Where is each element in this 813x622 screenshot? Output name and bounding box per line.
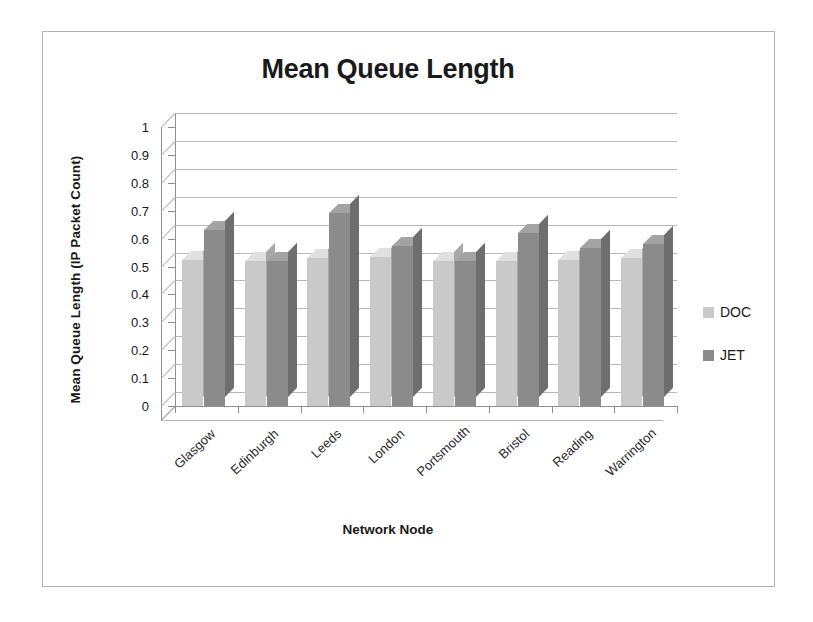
y-axis-tick [168,378,175,379]
chart-legend: DOCJET [703,304,783,390]
bar-side [413,227,422,397]
bar-side [664,226,673,397]
y-axis-tick-label: 0.8 [103,175,149,190]
gridline-depth [161,280,176,295]
bar-jet-reading [580,248,601,406]
floor-depth-line [161,406,176,421]
x-axis-category-label: London [351,426,407,479]
x-axis-category-label: Portsmouth [414,426,470,479]
x-axis-tick [552,406,553,413]
bar-face [392,246,413,406]
bar-doc-edinburgh [245,261,266,406]
y-axis-tick-label: 0.9 [103,147,149,162]
y-axis-line [175,113,176,406]
y-axis-tick-label: 0.6 [103,231,149,246]
x-axis-category-label: Reading [540,426,596,479]
gridline [175,141,677,142]
x-axis-tick [175,406,176,413]
x-axis-category-label: Leeds [289,426,345,479]
gridline-depth [161,392,176,407]
bar-face [518,233,539,406]
bar-face [204,230,225,406]
bar-face [621,258,642,406]
bar-side [476,243,485,397]
bar-face [580,248,601,406]
x-axis-tick [238,406,239,413]
y-axis-tick [168,267,175,268]
chart-container: Mean Queue Length Mean Queue Length (IP … [42,31,775,587]
bar-face [182,260,203,406]
y-axis-tick-label: 0.3 [103,315,149,330]
legend-label: DOC [720,304,751,320]
legend-item-doc[interactable]: DOC [703,304,783,320]
bar-face [329,213,350,406]
bar-side [601,230,610,397]
bar-jet-portsmouth [455,261,476,406]
gridline-depth [161,336,176,351]
legend-swatch-icon [703,307,714,318]
bar-doc-warrington [621,258,642,406]
y-axis-tick [168,183,175,184]
y-axis-tick-label: 0.5 [103,259,149,274]
bar-doc-london [370,257,391,406]
bar-face [455,261,476,406]
y-axis-tick [168,127,175,128]
gridline-depth [161,364,176,379]
y-axis-tick-label: 0 [103,399,149,414]
gridline [175,113,677,114]
legend-item-jet[interactable]: JET [703,347,783,363]
gridline-depth [161,253,176,268]
y-axis-tick-label: 1 [103,120,149,135]
bar-face [370,257,391,406]
bar-doc-portsmouth [433,261,454,406]
bar-face [433,261,454,406]
bar-face [267,261,288,406]
bar-side [350,195,359,397]
y-axis-tick [168,239,175,240]
y-axis-tick [168,155,175,156]
y-axis-tick [168,211,175,212]
bar-side [225,212,234,397]
x-axis-tick [489,406,490,413]
x-axis-tick [426,406,427,413]
legend-swatch-icon [703,350,714,361]
x-axis-category-label: Bristol [477,426,533,479]
x-axis-tick [301,406,302,413]
x-axis-tick [677,406,678,413]
bar-side [288,243,297,397]
bar-side [539,215,548,397]
bar-doc-glasgow [182,260,203,406]
y-axis-tick-label: 0.2 [103,343,149,358]
y-axis-tick [168,406,175,407]
y-axis-tick [168,294,175,295]
x-axis-category-label: Warrington [602,426,658,479]
bar-face [558,260,579,406]
bar-jet-leeds [329,213,350,406]
gridline [175,197,677,198]
x-axis-tick [614,406,615,413]
gridline-depth [161,169,176,184]
bar-jet-bristol [518,233,539,406]
x-axis-category-label: Edinburgh [226,426,282,479]
bar-jet-warrington [643,244,664,406]
gridline-depth [161,308,176,323]
y-axis-tick-label: 0.7 [103,203,149,218]
x-axis-category-labels: GlasgowEdinburghLeedsLondonPortsmouthBri… [161,420,677,520]
bar-jet-glasgow [204,230,225,406]
bar-face [643,244,664,406]
bar-doc-bristol [496,261,517,406]
gridline-depth [161,197,176,212]
x-axis-tick [363,406,364,413]
y-axis-title: Mean Queue Length (IP Packet Count) [68,130,83,430]
chart-title: Mean Queue Length [43,54,733,85]
gridline-depth [161,141,176,156]
plot-area: 10.90.80.70.60.50.40.30.20.10 [161,113,677,420]
legend-label: JET [720,347,745,363]
bar-face [245,261,266,406]
bar-face [307,258,328,406]
gridline-depth [161,225,176,240]
gridline-depth [161,113,176,128]
bar-jet-london [392,246,413,406]
bar-doc-reading [558,260,579,406]
y-axis-tick-label: 0.4 [103,287,149,302]
